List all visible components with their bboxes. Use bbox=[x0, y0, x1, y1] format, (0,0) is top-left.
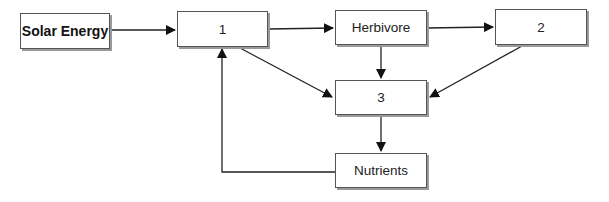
edge-nutrients-to-1 bbox=[222, 49, 335, 172]
node-herbivore: Herbivore bbox=[335, 10, 427, 45]
node-2: 2 bbox=[495, 9, 587, 45]
node-1: 1 bbox=[177, 11, 268, 47]
node-nutrients: Nutrients bbox=[335, 153, 427, 188]
edge-1-to-herbivore bbox=[268, 28, 333, 29]
edge-1-to-3 bbox=[240, 48, 332, 97]
edge-herbivore-to-2 bbox=[427, 27, 493, 28]
edge-2-to-3 bbox=[430, 46, 522, 97]
node-solar-energy: Solar Energy bbox=[20, 13, 110, 49]
node-3: 3 bbox=[335, 80, 427, 115]
